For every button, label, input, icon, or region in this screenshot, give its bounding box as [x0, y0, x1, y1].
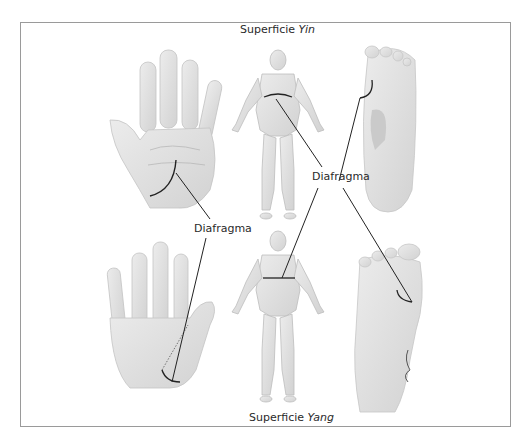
top-caption-prefix: Superficie: [240, 23, 295, 36]
callout-text: Diafragma: [194, 222, 252, 235]
bottom-caption-emphasis: Yang: [308, 411, 334, 424]
bottom-caption-prefix: Superficie: [249, 411, 304, 424]
top-caption: Superficie Yin: [240, 23, 315, 36]
diaphragm-callout-upper: Diafragma: [312, 170, 370, 183]
diaphragm-callout-lower: Diafragma: [194, 222, 252, 235]
body-front-illustration: [232, 50, 324, 219]
top-caption-emphasis: Yin: [299, 23, 316, 36]
sole-illustration: [363, 46, 416, 212]
body-back-illustration: [232, 231, 324, 402]
hand-back-illustration: [107, 242, 215, 388]
bottom-caption: Superficie Yang: [249, 411, 334, 424]
foot-top-illustration: [355, 244, 423, 412]
palm-illustration: [110, 50, 223, 208]
anatomy-illustration: [0, 0, 529, 447]
callout-text: Diafragma: [312, 170, 370, 183]
